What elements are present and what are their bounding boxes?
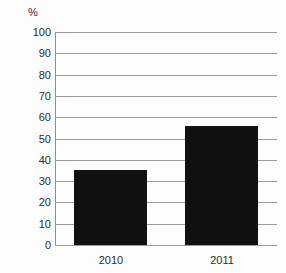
y-axis-tick-label: 0 — [3, 240, 51, 251]
plot-area — [55, 32, 277, 245]
y-axis-tick-label: 50 — [3, 134, 51, 145]
y-axis-tick-label: 90 — [3, 48, 51, 59]
gridline — [55, 117, 277, 118]
y-axis-tick-label: 60 — [3, 112, 51, 123]
y-axis-tick-label: 80 — [3, 70, 51, 81]
x-axis-tick-label: 2011 — [192, 254, 252, 266]
x-axis-baseline — [55, 245, 277, 246]
bar-chart: % 0102030405060708090100 20102011 — [0, 0, 286, 273]
y-axis-tick-label: 10 — [3, 219, 51, 230]
gridline — [55, 53, 277, 54]
y-axis-tick-labels: 0102030405060708090100 — [0, 0, 51, 273]
y-axis-tick-label: 20 — [3, 197, 51, 208]
y-axis-tick-label: 30 — [3, 176, 51, 187]
gridline — [55, 96, 277, 97]
gridline — [55, 75, 277, 76]
y-axis-tick-label: 70 — [3, 91, 51, 102]
bar — [185, 126, 258, 245]
y-axis-tick-label: 100 — [3, 27, 51, 38]
bar — [74, 170, 147, 245]
x-axis-tick-label: 2010 — [81, 254, 141, 266]
gridline — [55, 32, 277, 33]
y-axis-tick-label: 40 — [3, 155, 51, 166]
